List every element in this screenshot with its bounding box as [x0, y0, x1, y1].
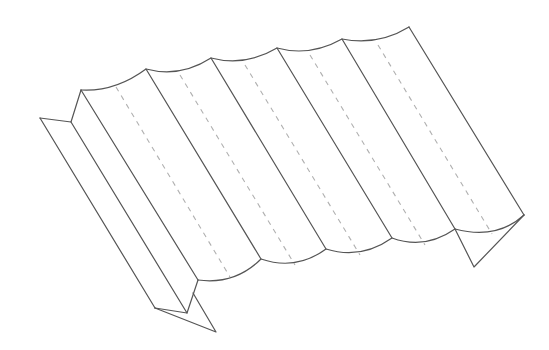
ridge-fold-lines: [81, 27, 524, 280]
top-scalloped-edge: [81, 27, 409, 90]
bottom-scalloped-edge: [198, 215, 524, 281]
valley-centerlines: [116, 45, 492, 277]
left-end-flap: [40, 90, 216, 332]
corrugated-sheet-drawing: [0, 0, 549, 350]
